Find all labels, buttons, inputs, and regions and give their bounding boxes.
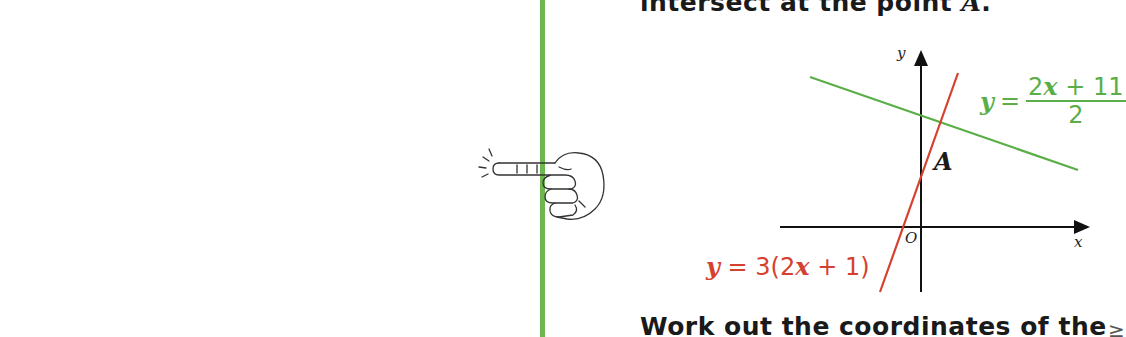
eq-red-post: + 1) — [810, 253, 870, 281]
eq-green-denominator: 2 — [1068, 102, 1083, 127]
y-axis-label: y — [897, 44, 905, 62]
point-a-label: A — [934, 147, 953, 176]
eq-green-lhs: y — [980, 87, 994, 116]
y-axis-arrow-icon — [914, 50, 928, 66]
x-axis-label: x — [1074, 233, 1082, 251]
red-line-equation: y = 3(2x + 1) — [706, 252, 870, 281]
intro-text: intersect at the point A. — [640, 0, 991, 17]
eq-red-mid: = 3(2 — [720, 253, 795, 281]
num-const: + 11 — [1058, 73, 1124, 101]
intro-text-body: intersect at the point — [640, 0, 961, 17]
cut-off-glyph: ≥ — [1108, 318, 1125, 337]
pointing-hand-icon — [475, 145, 615, 225]
x-axis-arrow-icon — [1074, 220, 1090, 234]
num-var: x — [1043, 72, 1057, 101]
intro-period: . — [981, 0, 991, 17]
eq-red-var: x — [795, 252, 809, 281]
origin-label: O — [905, 229, 917, 247]
question-text: Work out the coordinates of the — [640, 312, 1107, 337]
eq-green-fraction: 2x + 11 2 — [1026, 75, 1126, 127]
intro-point-var: A — [961, 0, 981, 17]
eq-green-equals: = — [1000, 87, 1020, 115]
eq-green-numerator: 2x + 11 — [1026, 75, 1126, 102]
green-line-equation: y = 2x + 11 2 — [980, 75, 1126, 127]
eq-red-lhs: y — [706, 252, 720, 281]
num-coef: 2 — [1028, 73, 1043, 101]
